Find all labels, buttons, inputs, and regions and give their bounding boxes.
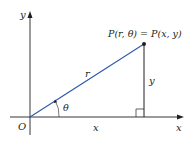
y-axis-arrow-icon	[28, 11, 33, 18]
radius-line	[30, 44, 144, 117]
point-p	[142, 42, 146, 46]
vertical-leg-label: y	[148, 75, 155, 86]
radius-label: r	[85, 68, 91, 79]
horizontal-leg-label: x	[93, 122, 99, 133]
polar-coordinates-diagram: y x O P(r, θ) = P(x, y) r θ x y	[0, 0, 191, 141]
right-angle-marker	[136, 109, 144, 117]
angle-arc	[55, 101, 59, 117]
angle-label: θ	[63, 102, 69, 113]
point-label: P(r, θ) = P(x, y)	[107, 28, 182, 39]
origin-label: O	[18, 121, 26, 132]
y-axis-label: y	[19, 9, 26, 20]
x-axis-arrow-icon	[177, 115, 184, 120]
x-axis-label: x	[176, 122, 182, 133]
